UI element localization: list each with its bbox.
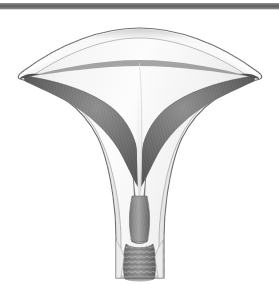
figure-page: · [0, 0, 279, 285]
uterus-diagram [0, 10, 279, 285]
cervix-rugae [123, 244, 155, 279]
external-os [126, 277, 154, 282]
cervical-canal-texture [129, 196, 149, 242]
figure-watermark: · [271, 269, 273, 275]
anatomical-illustration [0, 10, 279, 285]
